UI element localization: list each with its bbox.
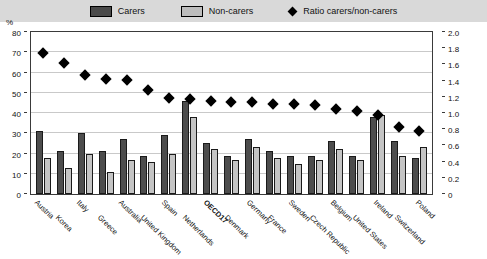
- legend-item-carers: Carers: [90, 6, 145, 17]
- bar-carers: [308, 156, 315, 194]
- y-axis-left-tick: 80: [12, 29, 21, 38]
- bar-non-carers: [274, 158, 281, 194]
- bar-group: [305, 32, 326, 194]
- ratio-marker-point: [309, 99, 320, 110]
- y-axis-left-tickmark: [24, 92, 27, 93]
- y-axis-left-tick: 30: [12, 130, 21, 139]
- ratio-marker-point: [247, 97, 258, 108]
- ratio-marker-point: [393, 121, 404, 132]
- ratio-marker-point: [142, 84, 153, 95]
- y-axis-right-tickmark: [442, 177, 445, 178]
- bar-non-carers: [169, 154, 176, 195]
- bar-non-carers: [190, 117, 197, 194]
- bar-non-carers: [336, 149, 343, 194]
- x-axis-label: Italy: [75, 198, 91, 214]
- y-axis-right-tickmark: [442, 63, 445, 64]
- bar-carers: [78, 133, 85, 194]
- bar-group: [33, 32, 54, 194]
- ratio-marker-point: [100, 73, 111, 84]
- y-axis-left-tickmark: [24, 132, 27, 133]
- y-axis-right-tickmark: [442, 96, 445, 97]
- non-carers-swatch-icon: [181, 6, 203, 17]
- x-axis-label-cell: Italy: [72, 196, 93, 258]
- x-axis-label-cell: Switzerland: [390, 196, 411, 258]
- y-axis-left-tick: 10: [12, 170, 21, 179]
- y-axis-unit-label: %: [6, 18, 13, 27]
- x-axis-label-cell: Austria: [30, 196, 51, 258]
- bar-carers: [36, 131, 43, 194]
- y-axis-left-tickmark: [24, 72, 27, 73]
- bar-group: [367, 32, 388, 194]
- bar-non-carers: [211, 149, 218, 194]
- legend-label-ratio: Ratio carers/non-carers: [303, 6, 397, 16]
- y-axis-left-tickmark: [24, 51, 27, 52]
- bar-carers: [161, 135, 168, 194]
- y-axis-right-tickmark: [442, 47, 445, 48]
- bar-carers: [224, 156, 231, 194]
- x-axis-label-cell: Spain: [157, 196, 178, 258]
- y-axis-right-tick: 1.2: [448, 93, 459, 102]
- ratio-marker-point: [205, 95, 216, 106]
- bar-non-carers: [399, 156, 406, 194]
- bar-non-carers: [378, 115, 385, 194]
- y-axis-right-tick: 1.6: [448, 61, 459, 70]
- y-axis-left-tickmark: [24, 153, 27, 154]
- bar-non-carers: [420, 147, 427, 194]
- y-axis-right-tick: 0.8: [448, 126, 459, 135]
- x-axis-label-cell: Greece: [94, 196, 115, 258]
- bar-carers: [391, 141, 398, 194]
- y-axis-left-tick: 40: [12, 110, 21, 119]
- bar-group: [117, 32, 138, 194]
- x-axis-label-cell: Belgium: [327, 196, 348, 258]
- y-axis-right: 2.01.81.61.41.21.00.80.60.40.20: [437, 31, 467, 195]
- bar-carers: [99, 151, 106, 194]
- bar-group: [284, 32, 305, 194]
- y-axis-right-tick: 0.2: [448, 174, 459, 183]
- bar-carers: [349, 156, 356, 194]
- bar-group: [346, 32, 367, 194]
- y-axis-left-tickmark: [24, 193, 27, 194]
- bar-group: [200, 32, 221, 194]
- legend-item-non-carers: Non-carers: [181, 6, 254, 17]
- ratio-marker-point: [163, 93, 174, 104]
- bar-non-carers: [357, 160, 364, 194]
- x-axis-label-cell: Denmark: [221, 196, 242, 258]
- x-axis-label-cell: United Kingdom: [136, 196, 157, 258]
- plot-area: [30, 31, 433, 195]
- bar-group: [409, 32, 430, 194]
- bar-carers: [287, 156, 294, 194]
- bar-carers: [328, 141, 335, 194]
- y-axis-right-tickmark: [442, 193, 445, 194]
- bar-group: [221, 32, 242, 194]
- chart-legend: Carers Non-carers Ratio carers/non-carer…: [0, 0, 487, 22]
- ratio-marker-point: [330, 103, 341, 114]
- bar-group: [263, 32, 284, 194]
- ratio-marker-point: [121, 74, 132, 85]
- bar-carers: [57, 151, 64, 194]
- ratio-marker-point: [414, 125, 425, 136]
- x-axis-label-cell: United States: [348, 196, 369, 258]
- y-axis-left-tickmark: [24, 31, 27, 32]
- bar-non-carers: [44, 158, 51, 194]
- y-axis-left-tick: 20: [12, 150, 21, 159]
- ratio-marker-point: [38, 47, 49, 58]
- x-axis-label: Poland: [414, 198, 437, 221]
- x-axis-label-cell: France: [263, 196, 284, 258]
- y-axis-right-tickmark: [442, 80, 445, 81]
- chart-root: Carers Non-carers Ratio carers/non-carer…: [0, 0, 487, 259]
- y-axis-right-tickmark: [442, 31, 445, 32]
- x-axis-label-cell: Germany: [242, 196, 263, 258]
- y-axis-right-tick: 1.8: [448, 45, 459, 54]
- legend-label-carers: Carers: [118, 6, 145, 16]
- bar-carers: [245, 139, 252, 194]
- x-axis-label: Spain: [160, 198, 180, 218]
- bar-carers: [120, 139, 127, 194]
- bar-groups: [31, 32, 432, 194]
- bar-group: [158, 32, 179, 194]
- bar-non-carers: [148, 162, 155, 194]
- y-axis-left-tickmark: [24, 173, 27, 174]
- y-axis-left-tick: 50: [12, 89, 21, 98]
- x-axis-label: Korea: [54, 213, 75, 233]
- y-axis-right-tickmark: [442, 161, 445, 162]
- y-axis-right-tick: 0.4: [448, 158, 459, 167]
